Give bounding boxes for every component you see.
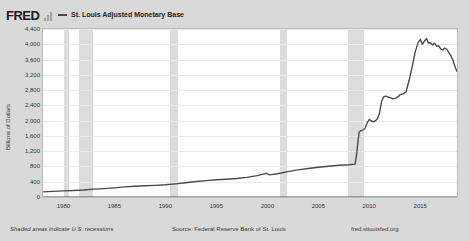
y-axis-tick-label: 3,200 [2,72,40,78]
fred-chart-widget: FRED St. Louis Adjusted Monetary Base Bi… [0,0,469,241]
footer-recession-note: Shaded areas indicate U.S. recessions [10,226,113,232]
x-axis-tick-label: 2000 [247,203,287,209]
bar-chart-icon [44,12,53,21]
chart-header: FRED St. Louis Adjusted Monetary Base [0,0,469,26]
x-axis-tick-label: 2005 [298,203,338,209]
x-axis-tick-label: 1985 [94,203,134,209]
x-axis-tick-label: 1995 [196,203,236,209]
y-axis-tick-label: 4,400 [2,26,40,32]
y-axis-tick-label: 4,000 [2,41,40,47]
y-axis-tick-label: 2,800 [2,87,40,93]
y-axis-tick-label: 0 [2,194,40,200]
x-axis-tick-label: 1990 [145,203,185,209]
x-axis-tick-label: 1980 [43,203,83,209]
fred-logo: FRED [6,9,39,22]
x-axis: 19801985199019952000200520102015 [42,203,458,213]
x-axis-tick-label: 2015 [400,203,440,209]
footer-url[interactable]: fred.stlouisfed.org [351,226,399,232]
y-axis-tick-label: 2,400 [2,102,40,108]
x-axis-tick-label: 2010 [349,203,389,209]
y-axis-tick-label: 1,200 [2,148,40,154]
y-axis-tick-label: 2,000 [2,118,40,124]
y-axis: Billions of Dollars 04008001,2001,6002,0… [0,28,40,198]
legend-swatch-icon [58,14,67,16]
legend-label: St. Louis Adjusted Monetary Base [71,11,184,18]
footer-source: Source: Federal Reserve Bank of St. Loui… [172,226,286,232]
chart-footer: Shaded areas indicate U.S. recessions So… [0,221,469,241]
series-line [43,29,457,197]
y-axis-tick-label: 800 [2,163,40,169]
y-axis-tick-label: 1,600 [2,133,40,139]
plot-area [42,28,458,198]
y-axis-tick-label: 400 [2,179,40,185]
y-axis-tick-label: 3,600 [2,57,40,63]
chart-legend[interactable]: St. Louis Adjusted Monetary Base [58,11,184,18]
